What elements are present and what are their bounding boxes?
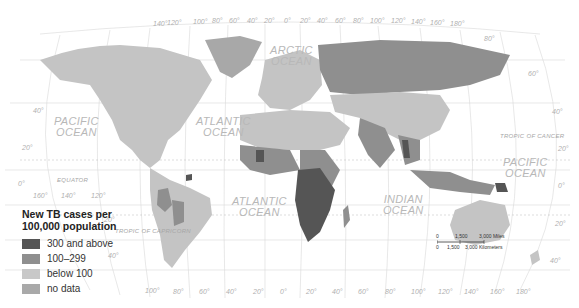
long-label: 120° — [391, 17, 405, 24]
long-label: 0° — [284, 17, 291, 24]
long-label: 160° — [490, 288, 504, 295]
lat-label: 20° — [555, 220, 566, 227]
ocean-name: OCEAN — [270, 56, 313, 67]
lat-label: 20° — [22, 144, 33, 151]
ocean-name: OCEAN — [232, 207, 287, 218]
ocean-name: OCEAN — [196, 127, 251, 138]
pacific-ocean-west-label: PACIFIC OCEAN — [54, 116, 99, 138]
long-label: 160° — [33, 192, 47, 199]
legend-title-line: New TB cases per — [22, 208, 132, 220]
legend-label: 300 and above — [47, 238, 113, 249]
scale-tick: 3,000 Kilometers — [465, 244, 503, 250]
indian-ocean-label: INDIAN OCEAN — [383, 194, 424, 216]
long-label: 0° — [280, 288, 287, 295]
lat-label: 40° — [552, 108, 563, 115]
legend-label: below 100 — [47, 268, 93, 279]
scale-tick: 1,500 — [447, 244, 460, 250]
long-label: 80° — [212, 17, 223, 24]
long-label: 60° — [358, 288, 369, 295]
long-label: 100° — [145, 287, 159, 294]
long-label: 100° — [193, 18, 207, 25]
pacific-ocean-east-label: PACIFIC OCEAN — [503, 157, 548, 179]
long-label: 100° — [370, 17, 384, 24]
scale-tick: 3,000 Miles — [479, 233, 505, 239]
long-label: 80° — [353, 17, 364, 24]
legend-item-300-and-above: 300 and above — [22, 236, 132, 251]
long-label: 140° — [411, 18, 425, 25]
long-label: 40° — [226, 288, 237, 295]
legend-title-line: 100,000 population — [22, 220, 132, 232]
swatch — [22, 254, 40, 264]
swatch — [22, 269, 40, 279]
ocean-name: OCEAN — [54, 127, 99, 138]
long-label: 20° — [306, 288, 317, 295]
lat-label: 0° — [558, 182, 565, 189]
long-label: 40° — [317, 17, 328, 24]
atlantic-ocean-south-label: ATLANTIC OCEAN — [232, 196, 287, 218]
scale-tick: 0 — [436, 233, 439, 239]
scale-tick: 0 — [436, 244, 439, 250]
lat-label: 60° — [528, 70, 539, 77]
swatch — [22, 239, 40, 249]
lat-label: 40° — [550, 257, 561, 264]
long-label: 100° — [411, 288, 425, 295]
long-label: 60° — [199, 288, 210, 295]
equator-label: EQUATOR — [57, 177, 88, 183]
long-label: 40° — [247, 17, 258, 24]
long-label: 120° — [167, 19, 181, 26]
long-label: 20° — [253, 288, 264, 295]
long-label: 140° — [464, 288, 478, 295]
legend-label: 100–299 — [47, 253, 86, 264]
legend-item-below-100: below 100 — [22, 266, 132, 281]
long-label: 180° — [450, 20, 464, 27]
long-label: 20° — [264, 17, 275, 24]
long-label: 140° — [153, 20, 167, 27]
map-legend: New TB cases per 100,000 population 300 … — [22, 208, 132, 296]
ocean-name: OCEAN — [383, 205, 424, 216]
lat-label: 80° — [484, 35, 495, 42]
lat-label: 40° — [33, 107, 44, 114]
long-label: 140° — [61, 192, 75, 199]
tropic-of-cancer-label: TROPIC OF CANCER — [500, 133, 564, 139]
long-label: 80° — [173, 288, 184, 295]
long-label: 80° — [385, 288, 396, 295]
legend-title: New TB cases per 100,000 population — [22, 208, 132, 232]
legend-item-no-data: no data — [22, 281, 132, 296]
lat-label: 20° — [558, 145, 569, 152]
long-label: 20° — [300, 17, 311, 24]
arctic-ocean-label: ARCTIC OCEAN — [270, 45, 313, 67]
long-label: 60° — [335, 17, 346, 24]
long-label: 120° — [91, 192, 105, 199]
lat-label: 0° — [18, 180, 25, 187]
long-label: 120° — [438, 288, 452, 295]
legend-label: no data — [47, 283, 80, 294]
scale-tick: 1,500 — [455, 233, 468, 239]
legend-item-100-299: 100–299 — [22, 251, 132, 266]
long-label: 40° — [332, 288, 343, 295]
long-label: 180° — [516, 288, 530, 295]
long-label: 60° — [229, 17, 240, 24]
swatch — [22, 284, 40, 294]
atlantic-ocean-north-label: ATLANTIC OCEAN — [196, 116, 251, 138]
ocean-name: OCEAN — [503, 168, 548, 179]
long-label: 160° — [430, 19, 444, 26]
